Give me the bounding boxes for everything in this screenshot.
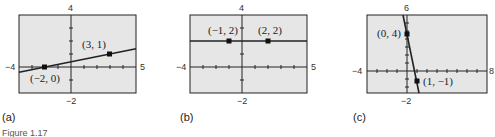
point-label: (1, −1) (423, 76, 453, 87)
graph-panel-c: 6 −2 −4 8 (0, 4) (1, −1) (c) (325, 0, 495, 137)
panel-caption: (a) (2, 111, 15, 123)
x-min-label: −4 (176, 62, 186, 73)
panel-caption: (c) (353, 111, 366, 123)
x-min-label: −4 (5, 62, 15, 73)
y-max-label: 4 (239, 3, 244, 14)
x-min-label: −4 (352, 66, 362, 77)
graph-c-plot (325, 0, 495, 137)
point-label: (3, 1) (82, 39, 106, 50)
point-label: (−2, 0) (30, 73, 60, 84)
point-label: (2, 2) (258, 25, 282, 36)
x-max-label: 8 (489, 66, 494, 77)
panel-caption: (b) (180, 111, 193, 123)
y-max-label: 6 (404, 3, 409, 14)
point-label: (−1, 2) (208, 25, 238, 36)
x-max-label: 5 (311, 62, 316, 73)
point-marker (266, 39, 271, 44)
point-marker (107, 52, 112, 57)
graph-panel-b: 4 −2 −4 5 (−1, 2) (2, 2) (b) (165, 0, 330, 137)
y-max-label: 4 (68, 3, 73, 14)
point-marker (405, 32, 410, 37)
x-max-label: 5 (140, 62, 145, 73)
figure-label: Figure 1.17 (2, 128, 48, 137)
point-marker (227, 39, 232, 44)
y-min-label: −2 (66, 96, 76, 107)
graph-panel-a: 4 −2 −4 5 (−2, 0) (3, 1) (a) Figure 1.17 (0, 0, 165, 137)
point-marker (415, 79, 420, 84)
y-min-label: −2 (237, 96, 247, 107)
point-label: (0, 4) (377, 28, 401, 39)
point-marker (42, 65, 47, 70)
y-min-label: −2 (401, 96, 411, 107)
